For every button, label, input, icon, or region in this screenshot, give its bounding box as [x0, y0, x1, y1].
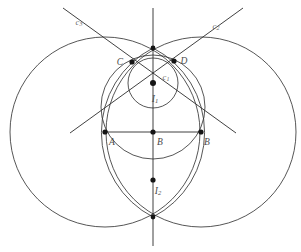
line-ray-c3 — [63, 8, 236, 133]
point-M — [150, 129, 155, 134]
point-I1 — [150, 80, 156, 86]
label-point-I2: I2 — [154, 186, 162, 196]
geometry-canvas: C D A B B I1 I2 c3 c2 c1 — [0, 0, 301, 252]
label-curve-c2: c2 — [213, 21, 220, 32]
label-point-I1-subscript: 1 — [155, 98, 158, 105]
label-point-I2-subscript: 2 — [158, 190, 162, 197]
label-curve-c3-subscript: 3 — [78, 22, 82, 28]
label-point-B: B — [204, 137, 210, 147]
label-point-D: D — [180, 56, 188, 66]
point-D — [171, 58, 176, 63]
label-curve-c1: c1 — [163, 72, 170, 83]
point-A — [102, 129, 107, 134]
geometry-diagram: C D A B B I1 I2 c3 c2 c1 — [0, 0, 301, 252]
label-point-M: B — [157, 137, 163, 147]
point-C — [129, 59, 134, 64]
label-curve-c1-subscript: 1 — [166, 77, 169, 83]
point-bottom-intersection — [151, 215, 156, 220]
label-point-I1: I1 — [151, 94, 158, 104]
label-curve-c3: c3 — [76, 17, 83, 28]
label-point-A: A — [108, 137, 115, 147]
point-top-intersection — [151, 46, 156, 51]
point-B — [198, 129, 203, 134]
label-point-C: C — [117, 57, 124, 67]
point-I2 — [150, 177, 155, 182]
label-curve-c2-subscript: 2 — [216, 26, 219, 32]
